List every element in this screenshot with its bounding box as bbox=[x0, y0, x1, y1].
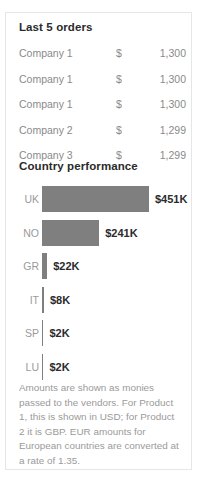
country-bar-value: $2K bbox=[49, 361, 69, 373]
country-bar-value: $22K bbox=[53, 260, 79, 272]
country-bar-row[interactable]: UK$451K bbox=[6, 184, 193, 214]
country-bar-row[interactable]: IT$8K bbox=[6, 285, 193, 315]
order-row[interactable]: Company 2$1,299 bbox=[19, 121, 186, 143]
order-amount: 1,300 bbox=[160, 47, 186, 59]
country-bar-track: $2K bbox=[42, 318, 193, 348]
country-bar-label: LU bbox=[6, 361, 39, 373]
country-bar-fill bbox=[42, 287, 44, 313]
order-company-name: Company 2 bbox=[19, 124, 73, 136]
country-bar-fill bbox=[42, 186, 149, 212]
order-amount: 1,299 bbox=[160, 149, 186, 161]
order-currency-symbol: $ bbox=[116, 98, 122, 110]
order-amount: 1,300 bbox=[160, 73, 186, 85]
country-bar-value: $8K bbox=[50, 294, 70, 306]
country-performance-title: Country performance bbox=[19, 160, 138, 172]
order-currency-symbol: $ bbox=[116, 73, 122, 85]
country-bar-track: $241K bbox=[42, 218, 193, 248]
country-bar-value: $241K bbox=[105, 227, 137, 239]
country-bar-label: UK bbox=[6, 193, 39, 205]
order-amount: 1,300 bbox=[160, 98, 186, 110]
order-amount: 1,299 bbox=[160, 124, 186, 136]
country-bar-row[interactable]: LU$2K bbox=[6, 352, 193, 382]
country-bar-value: $2K bbox=[49, 327, 69, 339]
orders-section-title: Last 5 orders bbox=[19, 21, 93, 33]
country-bar-row[interactable]: SP$2K bbox=[6, 318, 193, 348]
order-row[interactable]: Company 1$1,300 bbox=[19, 95, 186, 117]
country-bar-fill bbox=[42, 220, 99, 246]
country-bar-label: SP bbox=[6, 327, 39, 339]
order-company-name: Company 1 bbox=[19, 73, 73, 85]
country-bar-fill bbox=[42, 253, 47, 279]
country-bar-track: $22K bbox=[42, 251, 193, 281]
country-bar-track: $8K bbox=[42, 285, 193, 315]
country-bar-fill bbox=[42, 354, 43, 380]
country-bar-row[interactable]: NO$241K bbox=[6, 218, 193, 248]
summary-card: Last 5 orders Company 1$1,300Company 1$1… bbox=[5, 12, 192, 470]
footnote-text: Amounts are shown as monies passed to th… bbox=[19, 381, 182, 469]
country-bar-label: NO bbox=[6, 227, 39, 239]
order-currency-symbol: $ bbox=[116, 124, 122, 136]
order-row[interactable]: Company 1$1,300 bbox=[19, 44, 186, 66]
country-bar-value: $451K bbox=[155, 193, 187, 205]
country-bar-fill bbox=[42, 320, 43, 346]
order-company-name: Company 1 bbox=[19, 98, 73, 110]
order-company-name: Company 1 bbox=[19, 47, 73, 59]
country-bar-label: IT bbox=[6, 294, 39, 306]
country-bar-track: $2K bbox=[42, 352, 193, 382]
country-bar-row[interactable]: GR$22K bbox=[6, 251, 193, 281]
country-bar-label: GR bbox=[6, 260, 39, 272]
country-bar-track: $451K bbox=[42, 184, 193, 214]
order-row[interactable]: Company 1$1,300 bbox=[19, 70, 186, 92]
order-currency-symbol: $ bbox=[116, 47, 122, 59]
